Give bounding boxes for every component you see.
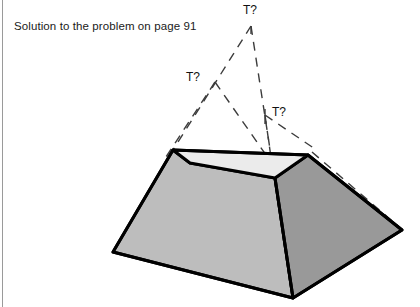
dashed-left-vertex-down bbox=[166, 82, 215, 157]
frustum-body bbox=[113, 150, 402, 298]
dashed-apex-to-left-corner bbox=[173, 26, 251, 150]
dashed-right-vertex-to-right-corner bbox=[265, 115, 318, 151]
label-right-vertex-unknown: T? bbox=[272, 105, 286, 119]
frustum-diagram bbox=[0, 0, 420, 307]
label-apex-unknown: T? bbox=[243, 3, 257, 17]
label-left-vertex-unknown: T? bbox=[186, 70, 200, 84]
frustum-right-face bbox=[275, 155, 402, 298]
figure-page: Solution to the problem on page 91 T? T? bbox=[0, 0, 420, 307]
